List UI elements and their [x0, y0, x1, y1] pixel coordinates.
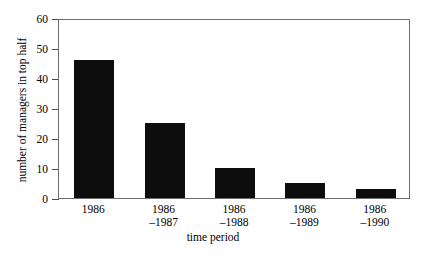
x-category-label: 1986 — [55, 203, 131, 216]
x-category-label-line1: 1986 — [337, 203, 413, 216]
x-category-label-line2: –1988 — [196, 216, 272, 229]
plot-area — [58, 19, 410, 199]
x-category-label-line1: 1986 — [126, 203, 202, 216]
bar — [356, 189, 396, 198]
x-category-label: 1986–1990 — [337, 203, 413, 229]
x-category-label-line1: 1986 — [266, 203, 342, 216]
y-tick-label: 0 — [14, 193, 48, 205]
y-tick-label: 10 — [14, 163, 48, 175]
x-category-label: 1986–1989 — [266, 203, 342, 229]
bar — [74, 60, 114, 198]
bar-chart-figure: number of managers in top half 010203040… — [0, 0, 426, 260]
y-tick-label: 50 — [14, 43, 48, 55]
y-tick-label: 40 — [14, 73, 48, 85]
y-tick-label: 20 — [14, 133, 48, 145]
bar — [215, 168, 255, 198]
y-tick-label: 30 — [14, 103, 48, 115]
x-category-label-line2: –1987 — [126, 216, 202, 229]
y-tick-label: 60 — [14, 13, 48, 25]
x-category-label: 1986–1988 — [196, 203, 272, 229]
x-category-label: 1986–1987 — [126, 203, 202, 229]
x-axis-title: time period — [0, 231, 426, 244]
x-category-label-line1: 1986 — [55, 203, 131, 216]
x-category-label-line1: 1986 — [196, 203, 272, 216]
bar — [145, 123, 185, 198]
x-category-label-line2: –1989 — [266, 216, 342, 229]
x-category-label-line2: –1990 — [337, 216, 413, 229]
y-tick-mark — [52, 199, 59, 200]
bar — [285, 183, 325, 198]
